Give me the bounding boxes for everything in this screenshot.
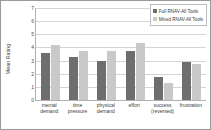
bar	[126, 51, 135, 100]
y-axis-tick-label: 3	[31, 58, 34, 64]
bar-group	[64, 8, 92, 100]
legend-item[interactable]: Mixed RNAV-All Tools	[153, 15, 203, 23]
bar-group	[36, 8, 64, 100]
y-axis-tick-label: 2	[31, 71, 34, 77]
bar	[164, 83, 173, 100]
legend-item[interactable]: Full RNAV-All Tools	[153, 7, 203, 15]
legend-swatch-icon	[153, 9, 157, 13]
legend-label: Full RNAV-All Tools	[159, 9, 198, 14]
x-axis-labels: mentaldemandtimepressurephysicaldemandef…	[35, 102, 205, 128]
x-axis-category-label: success(reversed)	[148, 102, 176, 128]
bar	[69, 57, 78, 100]
bar	[154, 77, 163, 100]
y-axis-title: Mean Rating	[2, 31, 14, 87]
x-axis-category-label: frustration	[177, 102, 205, 128]
chart-legend: Full RNAV-All ToolsMixed RNAV-All Tools	[150, 4, 207, 26]
chart-figure: Mean Rating 01234567 mentaldemandtimepre…	[0, 0, 211, 130]
x-axis-category-line: pressure	[63, 108, 91, 114]
y-axis-tick-label: 5	[31, 31, 34, 37]
y-axis-tick-label: 7	[31, 5, 34, 11]
x-axis-category-label: timepressure	[63, 102, 91, 128]
bar-group	[93, 8, 121, 100]
x-axis-category-line: demand	[92, 108, 120, 114]
bar	[136, 43, 145, 100]
legend-swatch-icon	[153, 17, 157, 21]
y-axis-tick-label: 4	[31, 44, 34, 50]
bar	[79, 51, 88, 100]
legend-label: Mixed RNAV-All Tools	[159, 17, 203, 22]
bar	[182, 62, 191, 100]
bar	[51, 45, 60, 100]
x-axis-category-line: frustration	[177, 102, 205, 108]
x-axis-category-label: physicaldemand	[92, 102, 120, 128]
bar	[41, 53, 50, 100]
y-axis-title-text: Mean Rating	[5, 44, 11, 75]
x-axis-category-label: effort	[120, 102, 148, 128]
bar-group	[121, 8, 149, 100]
bar	[107, 51, 116, 100]
x-axis-category-line: effort	[120, 102, 148, 108]
y-axis-tick-label: 1	[31, 84, 34, 90]
x-axis-category-line: (reversed)	[148, 108, 176, 114]
bar	[97, 61, 106, 100]
y-axis-tick-label: 0	[31, 97, 34, 103]
x-axis-category-line: demand	[35, 108, 63, 114]
y-axis-tick-label: 6	[31, 18, 34, 24]
x-axis-category-label: mentaldemand	[35, 102, 63, 128]
bar	[192, 64, 201, 100]
